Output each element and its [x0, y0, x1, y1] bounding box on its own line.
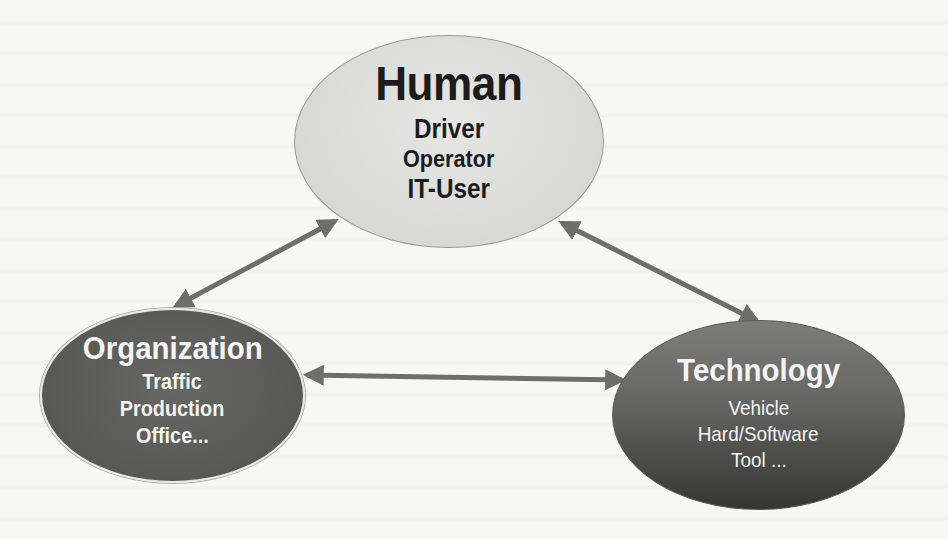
node-organization: Organization Traffic Production Office..…	[40, 308, 305, 483]
node-organization-item: Traffic	[143, 368, 202, 395]
node-human-item: Driver	[414, 114, 484, 144]
node-human-title: Human	[375, 58, 522, 108]
node-human-item: Operator	[403, 144, 494, 174]
arrow-organization-technology	[307, 375, 622, 380]
node-organization-title: Organization	[83, 330, 263, 366]
node-technology-title: Technology	[677, 351, 840, 389]
arrow-organization-human	[176, 221, 335, 306]
node-technology-item: Vehicle	[728, 395, 789, 421]
node-human: Human Driver Operator IT-User	[294, 35, 604, 248]
node-technology: Technology Vehicle Hard/Software Tool ..…	[612, 320, 905, 510]
node-organization-item: Office...	[136, 422, 209, 449]
arrow-human-technology	[562, 223, 757, 321]
node-technology-item: Tool ...	[731, 447, 787, 473]
node-organization-item: Production	[120, 395, 224, 422]
node-human-item: IT-User	[408, 174, 490, 204]
node-technology-item: Hard/Software	[698, 421, 819, 447]
